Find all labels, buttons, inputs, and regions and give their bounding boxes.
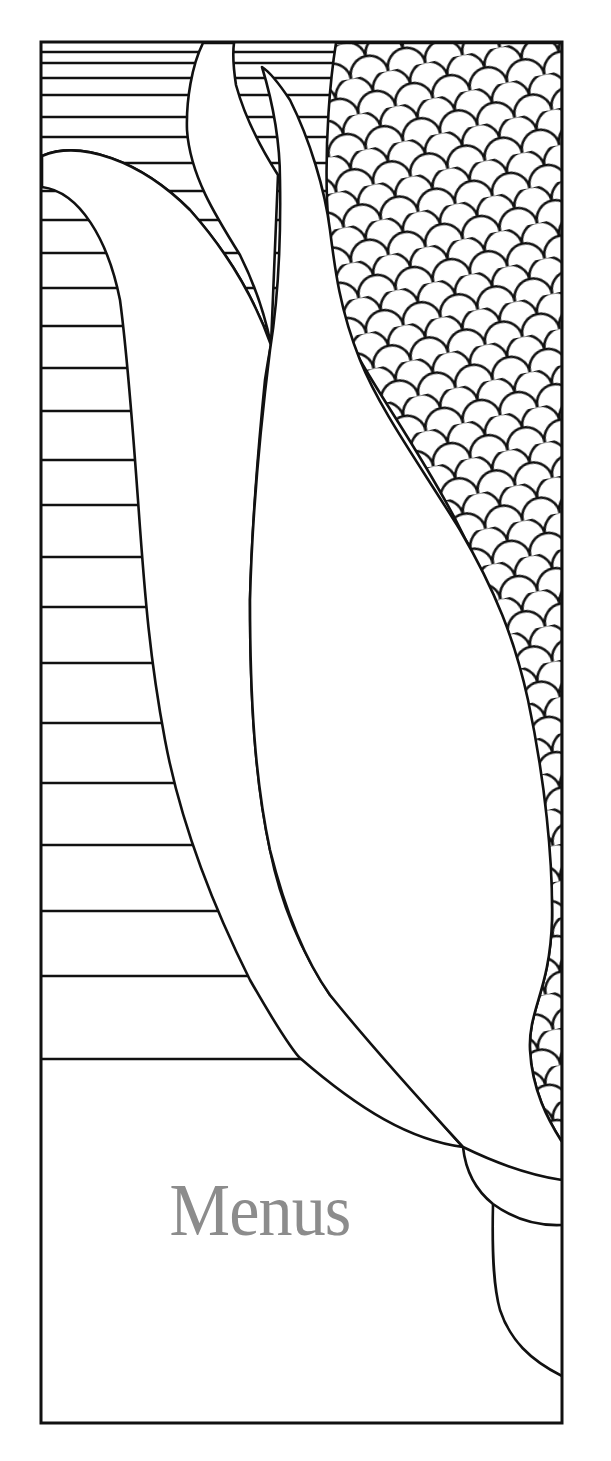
page-title: Menus (170, 1168, 345, 1252)
stalk-icon (493, 1204, 562, 1376)
